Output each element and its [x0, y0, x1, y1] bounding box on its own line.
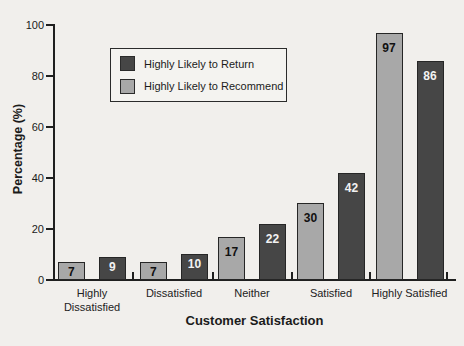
x-axis-tick — [446, 272, 448, 280]
y-axis-tick — [46, 24, 53, 26]
y-axis-tick — [46, 126, 53, 128]
category-label-4: Highly Satisfied — [368, 287, 452, 301]
legend-item-recommend: Highly Likely to Recommend — [120, 79, 286, 94]
y-axis-title: Percentage (%) — [11, 89, 25, 209]
y-tick-label: 100 — [12, 18, 44, 32]
bar-return-1: 10 — [181, 254, 208, 280]
legend-swatch-return — [120, 56, 135, 71]
legend-label-return: Highly Likely to Return — [144, 58, 254, 70]
bar-value-label: 86 — [418, 62, 443, 83]
bar-return-3: 42 — [338, 173, 365, 280]
legend-item-return: Highly Likely to Return — [120, 56, 286, 71]
x-axis-tick — [132, 272, 134, 280]
legend-label-recommend: Highly Likely to Recommend — [144, 80, 283, 92]
bar-return-4: 86 — [417, 61, 444, 280]
category-label-0: Highly Dissatisfied — [50, 287, 134, 314]
y-tick-label: 0 — [12, 273, 44, 287]
y-axis-tick — [46, 279, 53, 281]
bar-recommend-2: 17 — [218, 237, 245, 280]
bar-value-label: 22 — [260, 225, 285, 246]
bar-recommend-1: 7 — [140, 262, 167, 280]
y-tick-label: 60 — [12, 120, 44, 134]
bar-recommend-4: 97 — [376, 33, 403, 280]
bar-value-label: 7 — [59, 263, 84, 279]
x-axis-tick — [212, 272, 214, 280]
y-tick-label: 80 — [12, 69, 44, 83]
legend-swatch-recommend — [120, 79, 135, 94]
legend: Highly Likely to Return Highly Likely to… — [110, 48, 287, 102]
x-axis-tick — [291, 272, 293, 280]
bar-value-label: 42 — [339, 174, 364, 195]
bar-value-label: 17 — [219, 238, 244, 259]
bar-value-label: 97 — [377, 34, 402, 55]
bar-value-label: 10 — [182, 255, 207, 271]
bar-value-label: 9 — [100, 258, 125, 274]
x-axis-tick — [369, 272, 371, 280]
bar-return-0: 9 — [99, 257, 126, 280]
y-tick-label: 40 — [12, 171, 44, 185]
chart-figure: Percentage (%) 02040608010079Highly Diss… — [0, 0, 464, 346]
category-label-2: Neither — [210, 287, 294, 301]
category-label-1: Dissatisfied — [132, 287, 216, 301]
y-tick-label: 20 — [12, 222, 44, 236]
bar-recommend-0: 7 — [58, 262, 85, 280]
y-axis-line — [53, 24, 55, 281]
y-axis-tick — [46, 228, 53, 230]
bar-return-2: 22 — [259, 224, 286, 280]
bar-value-label: 7 — [141, 263, 166, 279]
bar-recommend-3: 30 — [297, 203, 324, 280]
x-axis-title: Customer Satisfaction — [53, 313, 456, 328]
category-label-3: Satisfied — [289, 287, 373, 301]
y-axis-tick — [46, 75, 53, 77]
y-axis-tick — [46, 177, 53, 179]
bar-value-label: 30 — [298, 204, 323, 225]
